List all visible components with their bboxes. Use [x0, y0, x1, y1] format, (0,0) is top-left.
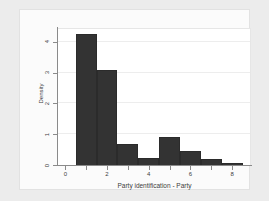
- x-tick-mark: [107, 166, 108, 170]
- y-tick-label: 2: [44, 98, 51, 108]
- y-tick-label: 3: [44, 68, 51, 78]
- y-tick-label: 4: [44, 37, 51, 47]
- x-axis-title: Party identification - Party: [58, 182, 251, 190]
- x-tick-mark: [170, 166, 171, 170]
- x-tick-label: 4: [142, 171, 156, 178]
- histogram-bar: [76, 34, 97, 165]
- x-tick-label: 8: [225, 171, 239, 178]
- x-tick-mark: [149, 166, 150, 170]
- y-axis-line: [57, 27, 58, 166]
- histogram-bars: [58, 29, 250, 165]
- histogram-bar: [180, 151, 201, 165]
- x-tick-mark: [65, 166, 66, 170]
- y-tick-mark: [53, 134, 57, 135]
- histogram-bar: [97, 70, 118, 165]
- histogram-bar: [138, 158, 159, 165]
- y-tick-mark: [53, 165, 57, 166]
- graph-card: Density 01234 02468 Party identification…: [19, 9, 250, 190]
- x-tick-label: 2: [100, 171, 114, 178]
- y-tick-mark: [53, 73, 57, 74]
- histogram-bar: [159, 137, 180, 165]
- y-tick-mark: [53, 103, 57, 104]
- histogram-bar: [117, 144, 138, 165]
- x-tick-mark: [211, 166, 212, 170]
- plot-region: [58, 28, 251, 165]
- x-tick-mark: [232, 166, 233, 170]
- y-tick-mark: [53, 42, 57, 43]
- x-tick-label: 0: [58, 171, 72, 178]
- x-tick-label: 6: [183, 171, 197, 178]
- y-tick-label: 0: [44, 160, 51, 170]
- y-tick-label: 1: [44, 129, 51, 139]
- figure-canvas: Density 01234 02468 Party identification…: [0, 0, 269, 201]
- x-tick-mark: [86, 166, 87, 170]
- x-tick-mark: [190, 166, 191, 170]
- x-tick-mark: [128, 166, 129, 170]
